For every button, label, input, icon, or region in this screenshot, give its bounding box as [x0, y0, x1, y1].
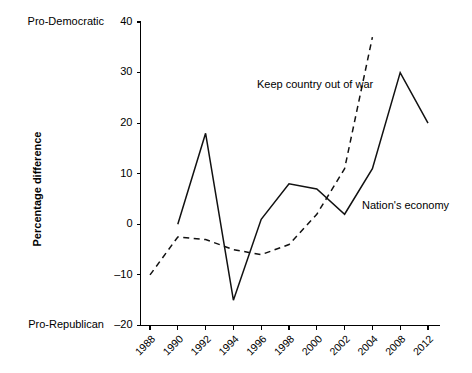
x-tick-label: 2000 — [299, 332, 324, 357]
x-tick-label: 1996 — [244, 332, 269, 357]
y-axis-ticks — [137, 22, 141, 326]
series-nations-economy — [178, 73, 428, 301]
x-tick-label: 1988 — [132, 332, 157, 357]
x-tick-label: 1998 — [271, 332, 296, 357]
pro-republican-label: Pro-Republican — [28, 318, 104, 330]
series-annotations: Keep country out of warNation's economy — [257, 78, 450, 211]
chart-container: –20–10010203040 198819901992199419961998… — [0, 0, 472, 373]
x-tick-label: 1992 — [188, 332, 213, 357]
x-tick-label: 2012 — [410, 332, 435, 357]
x-tick-label: 1990 — [160, 332, 185, 357]
x-tick-label: 2008 — [383, 332, 408, 357]
x-tick-label: 2004 — [355, 332, 380, 357]
y-axis-tick-labels: –20–10010203040 — [114, 15, 132, 331]
y-tick-label: 20 — [120, 116, 132, 128]
y-tick-label: 30 — [120, 65, 132, 77]
y-axis-title: Percentage difference — [31, 132, 43, 247]
y-tick-label: –20 — [114, 318, 132, 330]
x-axis-ticks — [150, 326, 428, 330]
series-keep-country-out-of-war — [150, 37, 372, 275]
line-chart: –20–10010203040 198819901992199419961998… — [0, 0, 472, 373]
y-tick-label: 10 — [120, 167, 132, 179]
series-annotation-label: Keep country out of war — [257, 78, 374, 90]
x-axis-tick-labels: 1988199019921994199619982000200220042008… — [132, 332, 435, 357]
series-group — [150, 37, 428, 300]
axes-group — [141, 22, 441, 326]
pro-democratic-label: Pro-Democratic — [28, 15, 105, 27]
x-tick-label: 1994 — [216, 332, 241, 357]
y-tick-label: 0 — [126, 217, 132, 229]
x-tick-label: 2002 — [327, 332, 352, 357]
y-tick-label: 40 — [120, 15, 132, 27]
y-tick-label: –10 — [114, 268, 132, 280]
series-annotation-label: Nation's economy — [362, 199, 450, 211]
